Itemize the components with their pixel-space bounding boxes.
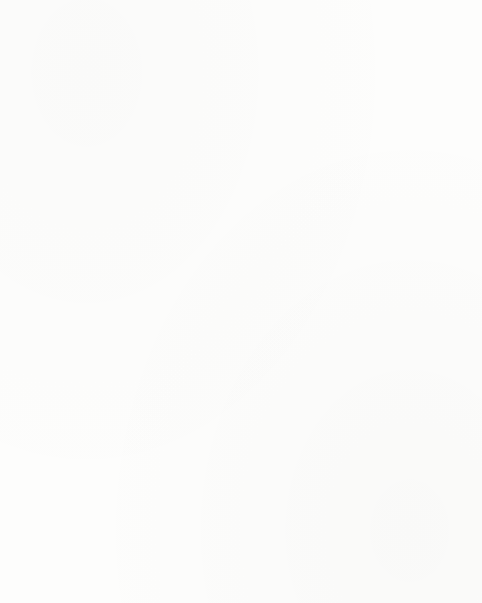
log-log-plot: 1101001000 101001000 √s (GeV) σ (μb): [0, 0, 482, 603]
ladder-rung: [244, 327, 247, 347]
ladder-rung: [276, 284, 279, 307]
y-tick-label: 1: [65, 533, 72, 548]
y-tick-label: 100: [51, 195, 72, 210]
ladder-rung: [293, 263, 296, 288]
curve-upper-band-lower-edge: [181, 122, 439, 402]
ladder-rung: [230, 349, 234, 367]
ladder-rung: [302, 253, 305, 279]
ladder-rung: [260, 305, 263, 326]
ladder-rung: [166, 480, 169, 489]
x-axis-ticks-bottom: [81, 531, 439, 540]
lower-band-ladder-hatching: [166, 159, 398, 489]
ladder-rung: [198, 408, 202, 422]
curve-lower-band-lower-edge: [169, 168, 439, 490]
ladder-rung: [193, 420, 196, 433]
y-tick-label: 10: [58, 364, 72, 379]
curve-lower-band-upper-edge: [166, 129, 440, 481]
y-tick-label: 1000: [43, 26, 72, 41]
ladder-rung: [171, 468, 174, 477]
axis-frame: [79, 33, 440, 540]
ladder-rung: [338, 214, 341, 244]
ladder-rung: [237, 338, 240, 357]
ladder-rung: [224, 361, 228, 378]
ladder-rung: [187, 432, 190, 444]
y-axis-ticks-left: [79, 33, 88, 540]
y-axis-ticks-right: [431, 33, 440, 540]
ladder-rung: [217, 372, 221, 389]
ladder-rung: [268, 294, 271, 316]
x-tick-label: 1000: [425, 545, 454, 560]
x-tick-label: 10: [110, 545, 124, 560]
x-tick-label: 100: [267, 545, 288, 560]
y-axis-tick-labels: 1101001000: [43, 26, 72, 548]
x-axis-tick-labels: 101001000: [110, 545, 454, 560]
ladder-rung: [181, 444, 184, 455]
figure-root: 1101001000 101001000 √s (GeV) σ (μb): [0, 0, 482, 603]
y-axis-title: σ (μb): [24, 277, 39, 314]
ladder-rung: [211, 384, 215, 400]
curve-group: [166, 98, 440, 490]
ladder-rung: [176, 456, 179, 466]
x-axis-ticks-top: [81, 33, 439, 42]
ladder-rung: [284, 274, 287, 298]
x-axis-title: √s (GeV): [233, 566, 288, 581]
ladder-rung: [356, 195, 358, 227]
ladder-rung: [396, 159, 397, 194]
ladder-rung: [319, 233, 322, 261]
ladder-rung: [310, 243, 313, 270]
ladder-rung: [204, 396, 208, 411]
ladder-rung: [252, 316, 255, 336]
